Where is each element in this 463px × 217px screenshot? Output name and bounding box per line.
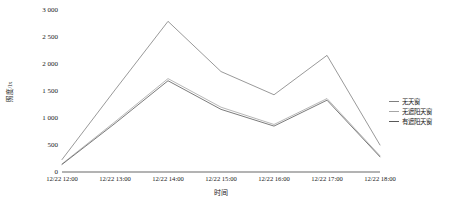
x-axis-tick-labels: 12/22 12:0012/22 13:0012/22 14:0012/22 1…	[62, 174, 380, 188]
y-tick-label: 1 000	[14, 114, 58, 122]
x-tick-label: 12/22 18:00	[345, 174, 415, 184]
chart-legend: 无天窗无遮阳天窗有遮阳天窗	[389, 97, 463, 127]
illuminance-line-chart: 照度/lx 05001 0001 5002 0002 5003 000 12/2…	[0, 0, 463, 217]
y-tick-label: 500	[14, 141, 58, 149]
y-tick-label: 2 000	[14, 60, 58, 68]
legend-item-2[interactable]: 无遮阳天窗	[389, 107, 463, 116]
y-axis-tick-labels: 05001 0001 5002 0002 5003 000	[12, 0, 58, 217]
y-tick-label: 1 500	[14, 87, 58, 95]
y-tick-label: 3 000	[14, 6, 58, 14]
legend-item-1[interactable]: 无天窗	[389, 97, 463, 106]
y-tick-label: 2 500	[14, 33, 58, 41]
series-line-2	[62, 79, 380, 164]
series-line-1	[62, 21, 380, 159]
x-axis-title: 时间	[62, 188, 380, 198]
legend-label: 有遮阳天窗	[402, 117, 432, 126]
series-line-3	[62, 81, 380, 165]
legend-line-swatch-icon	[389, 101, 399, 102]
legend-line-swatch-icon	[389, 111, 399, 112]
legend-label: 无遮阳天窗	[402, 107, 432, 116]
plot-svg	[62, 10, 380, 172]
legend-line-swatch-icon	[389, 121, 399, 122]
legend-label: 无天窗	[402, 97, 420, 106]
plot-area	[62, 10, 380, 172]
legend-item-3[interactable]: 有遮阳天窗	[389, 117, 463, 126]
series-group	[62, 21, 380, 164]
